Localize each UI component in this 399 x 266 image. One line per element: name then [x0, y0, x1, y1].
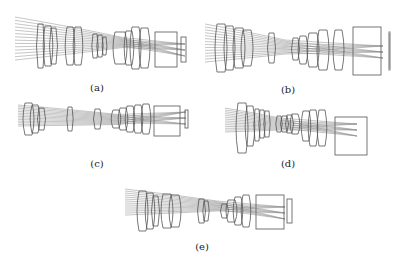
lens-element [67, 107, 73, 131]
panel-label-c: (c) [90, 158, 103, 169]
detector-plane [185, 110, 188, 128]
ray-trace-svg [15, 15, 190, 77]
ray-bundle [15, 17, 185, 60]
panel-label-a: (a) [90, 82, 104, 93]
lens-diagram-e [125, 185, 295, 240]
lens-diagram-d [225, 102, 370, 157]
ray-trace-svg [18, 104, 193, 140]
ray-trace-svg [225, 102, 370, 157]
prism-block [154, 106, 180, 136]
panel-label-d: (d) [281, 158, 295, 169]
lens-diagram-b [205, 22, 390, 82]
lens-diagram-c [18, 104, 193, 140]
lens-element [264, 111, 270, 137]
lens-element [245, 106, 255, 146]
panel-label-b: (b) [281, 84, 295, 95]
ray-bundle [205, 24, 383, 62]
lens-element [290, 114, 300, 134]
detector-plane [287, 199, 292, 223]
detector-plane [389, 32, 390, 70]
ray-trace-svg [125, 185, 295, 240]
lens-diagram-a [15, 15, 190, 77]
ray-trace-svg [205, 22, 390, 82]
panel-label-e: (e) [195, 241, 209, 252]
